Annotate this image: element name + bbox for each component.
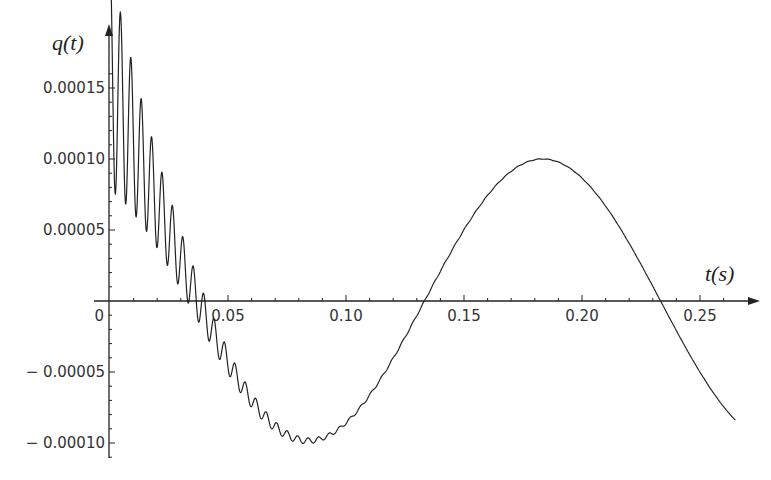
y-tick-label: − 0.00005	[26, 363, 105, 381]
y-axis-title: q(t)	[52, 30, 84, 55]
x-axis-arrow-icon	[748, 297, 760, 305]
y-tick-label: − 0.00010	[26, 434, 105, 452]
x-tick-label: 0.20	[565, 307, 598, 325]
x-axis-title: t(s)	[705, 261, 734, 286]
series-q-t	[110, 0, 735, 443]
x-tick-label: 0.15	[447, 307, 480, 325]
ticks	[109, 74, 724, 457]
x-tick-label: 0	[94, 307, 104, 325]
x-tick-label: 0.25	[683, 307, 716, 325]
x-tick-label: 0.05	[211, 307, 244, 325]
y-tick-label: 0.00015	[43, 79, 105, 97]
tick-labels: 00.050.100.150.200.250.000150.000100.000…	[26, 79, 717, 452]
y-tick-label: 0.00010	[43, 150, 105, 168]
x-tick-label: 0.10	[329, 307, 362, 325]
chart: 00.050.100.150.200.250.000150.000100.000…	[0, 0, 771, 480]
y-axis	[105, 24, 113, 458]
y-tick-label: 0.00005	[43, 221, 105, 239]
